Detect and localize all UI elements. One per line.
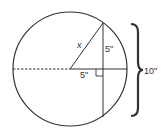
brace xyxy=(131,24,143,116)
label-center-distance: 5" xyxy=(80,70,88,80)
label-x: x xyxy=(76,40,82,50)
radius-x xyxy=(70,23,103,69)
right-angle-marker xyxy=(96,69,103,76)
label-chord-length: 10" xyxy=(144,66,157,76)
label-half-chord: 5" xyxy=(105,44,113,54)
circle-diagram: x 5" 5" 10" xyxy=(0,0,168,132)
